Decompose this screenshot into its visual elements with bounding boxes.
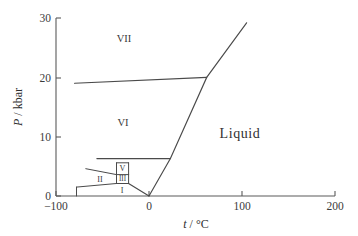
region-label-ice-iii: III xyxy=(119,175,127,183)
y-tick-label-10: 10 xyxy=(40,131,52,143)
ice-vi-vii-boundary xyxy=(75,77,207,83)
x-ticks xyxy=(56,191,335,196)
region-label-ice-vii: VII xyxy=(117,33,132,44)
region-label-ice-i: I xyxy=(121,186,124,195)
axis-group: 0 10 20 30 −100 0 100 200 t / °C P / kba… xyxy=(11,12,344,231)
y-axis-title: P / kbar xyxy=(11,88,25,127)
x-tick-label-100: 100 xyxy=(233,200,251,212)
y-tick-label-30: 30 xyxy=(40,12,52,24)
y-axis-title-sep: / xyxy=(11,109,25,118)
x-tick-label-minus100: −100 xyxy=(44,200,68,212)
y-tick-label-20: 20 xyxy=(40,72,52,84)
x-tick-label-200: 200 xyxy=(326,200,344,212)
phase-diagram-figure: 0 10 20 30 −100 0 100 200 t / °C P / kba… xyxy=(0,0,358,236)
x-axis-title-sep: / xyxy=(187,217,196,231)
y-axis-title-unit: kbar xyxy=(11,88,25,109)
x-tick-label-0: 0 xyxy=(146,200,152,212)
ice-ii-i-boundary xyxy=(77,184,117,188)
phase-diagram-svg: 0 10 20 30 −100 0 100 200 t / °C P / kba… xyxy=(0,0,358,236)
ice-i-liquid-boundary xyxy=(129,184,149,197)
region-label-ice-vi: VI xyxy=(117,117,129,128)
phase-boundaries xyxy=(75,23,247,196)
region-label-liquid: Liquid xyxy=(220,126,261,141)
x-axis-title-unit: °C xyxy=(196,217,209,231)
region-labels: VII VI V III II I Liquid xyxy=(97,33,260,195)
x-axis-title: t / °C xyxy=(183,217,209,231)
ice-v-ii-boundary xyxy=(86,169,117,175)
y-ticks xyxy=(56,18,61,196)
region-label-ice-v: V xyxy=(120,164,126,173)
region-label-ice-ii: II xyxy=(97,175,103,184)
liquid-ice-melting-curve xyxy=(149,23,247,196)
